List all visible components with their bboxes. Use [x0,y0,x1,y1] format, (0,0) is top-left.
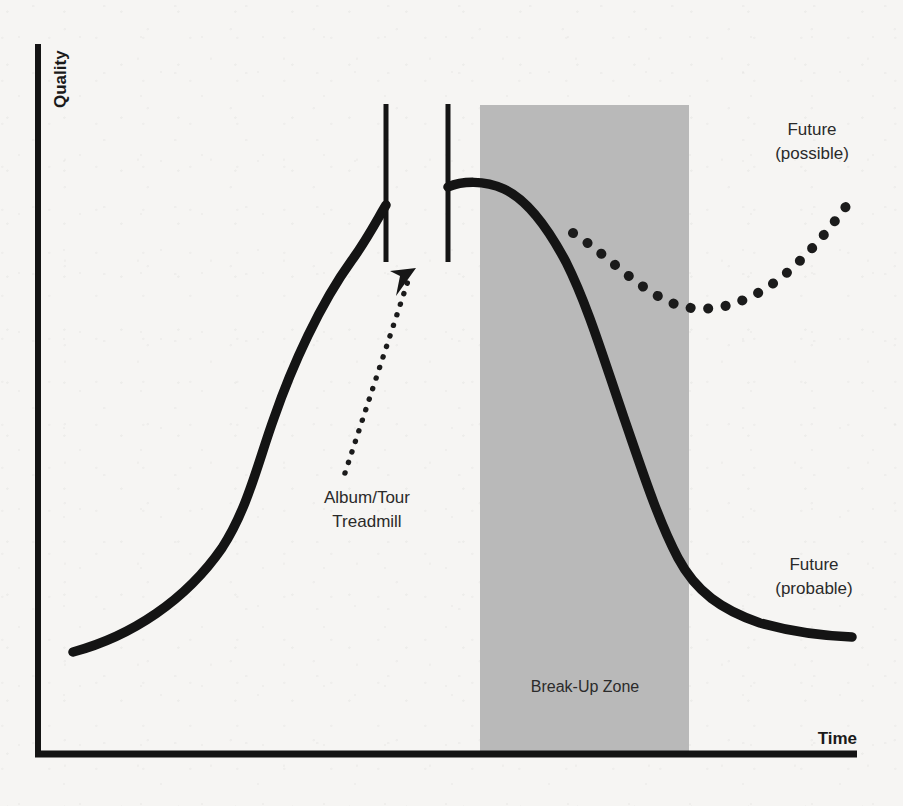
treadmill-annotation-line2: Treadmill [332,512,401,531]
future-possible-label-line2: (possible) [775,144,849,163]
break-up-zone-label: Break-Up Zone [531,678,640,695]
treadmill-annotation-line1: Album/Tour [324,488,410,507]
future-possible-label-line1: Future [787,120,836,139]
chart-page: Quality Time Break-Up Zone Album/Tour Tr… [0,0,903,806]
future-probable-label-line2: (probable) [775,579,853,598]
treadmill-pointer-dotted-line [345,281,408,473]
break-up-zone-band [480,105,689,755]
future-probable-label-line1: Future [789,555,838,574]
x-axis-label: Time [818,729,857,748]
quality-curve-left-segment [73,205,386,652]
quality-over-time-chart: Quality Time Break-Up Zone Album/Tour Tr… [0,0,903,806]
y-axis-label: Quality [51,50,70,108]
